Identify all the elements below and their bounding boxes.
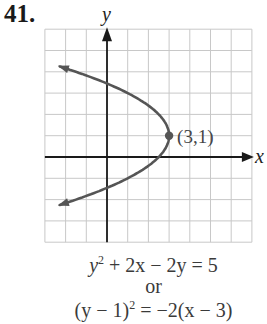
vertex-point bbox=[165, 132, 173, 140]
eq2-rest: = −2(x − 3) bbox=[135, 299, 232, 321]
parabola-graph: (3,1) x y bbox=[0, 0, 267, 250]
equation-standard-form: y2 + 2x − 2y = 5 bbox=[0, 253, 267, 277]
eq1-base: y bbox=[89, 254, 98, 276]
equation-vertex-form: (y − 1)2 = −2(x − 3) bbox=[0, 298, 267, 322]
eq2-base: (y − 1) bbox=[75, 299, 130, 321]
y-axis-label: y bbox=[100, 3, 111, 26]
x-axis-label: x bbox=[254, 145, 264, 167]
equation-connector: or bbox=[0, 275, 267, 298]
eq1-rest: + 2x − 2y = 5 bbox=[104, 254, 218, 276]
grid bbox=[45, 29, 252, 242]
axes bbox=[45, 27, 254, 242]
vertex-label: (3,1) bbox=[177, 126, 213, 148]
